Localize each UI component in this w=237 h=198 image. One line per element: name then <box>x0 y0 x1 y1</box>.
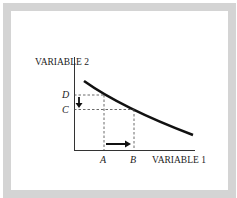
down-arrow-icon <box>76 97 83 108</box>
diagram: VARIABLE 2 D C A B VARIABLE 1 <box>0 0 237 198</box>
y-axis-label: VARIABLE 2 <box>35 57 89 67</box>
tick-label-c: C <box>62 104 69 115</box>
x-axis-label: VARIABLE 1 <box>152 155 206 165</box>
tick-label-a: A <box>99 154 107 165</box>
tick-label-b: B <box>130 154 136 165</box>
right-arrow-icon <box>106 141 131 148</box>
demand-curve <box>84 81 193 135</box>
tick-label-d: D <box>61 89 70 100</box>
